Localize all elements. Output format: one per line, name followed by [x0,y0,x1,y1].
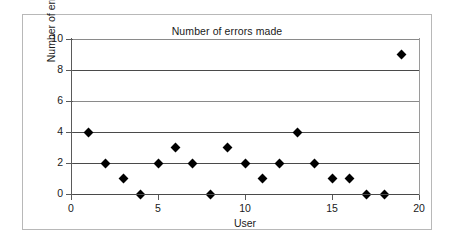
data-point [397,50,407,60]
y-tick-8 [66,70,73,71]
y-tick-2 [66,163,73,164]
gridline-y-10 [71,39,419,40]
chart-title: Number of errors made [23,25,431,37]
data-point [83,127,93,137]
gridline-y-4 [71,132,419,133]
y-tick-label-0: 0 [29,187,63,199]
data-point [275,158,285,168]
data-point [257,174,267,184]
data-point [344,174,354,184]
y-axis-line [71,38,72,195]
data-point [153,158,163,168]
plot-area [71,39,419,194]
x-axis-title: User [71,217,419,229]
data-point [310,158,320,168]
data-point [240,158,250,168]
data-point [170,143,180,153]
gridline-y-6 [71,101,419,102]
x-tick-10 [245,195,246,200]
data-point [188,158,198,168]
x-tick-label-20: 20 [404,202,434,214]
x-tick-label-5: 5 [143,202,173,214]
y-tick-6 [66,101,73,102]
y-tick-label-10: 10 [29,32,63,44]
gridline-y-8 [71,70,419,71]
y-tick-label-2: 2 [29,156,63,168]
plot-right-edge [419,38,420,195]
x-tick-20 [419,195,420,200]
y-tick-label-8: 8 [29,63,63,75]
y-tick-10 [66,39,73,40]
x-tick-label-0: 0 [56,202,86,214]
y-tick-label-4: 4 [29,125,63,137]
data-point [223,143,233,153]
x-tick-label-10: 10 [230,202,260,214]
x-tick-label-15: 15 [317,202,347,214]
data-point [118,174,128,184]
data-point [292,127,302,137]
chart-frame: Number of errors made Number of errors m… [22,14,432,230]
data-point [101,158,111,168]
x-tick-15 [332,195,333,200]
y-tick-4 [66,132,73,133]
y-tick-label-6: 6 [29,94,63,106]
x-tick-5 [158,195,159,200]
x-tick-0 [71,195,72,200]
data-point [327,174,337,184]
